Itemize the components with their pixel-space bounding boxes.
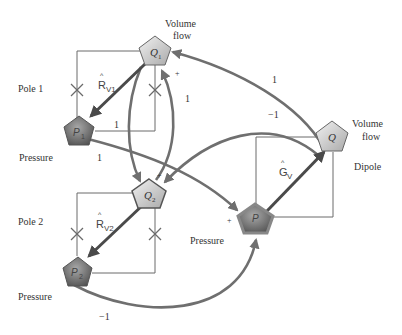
q1-desc-line1: Volume (165, 18, 196, 29)
edge-q1-to-q2 (129, 67, 141, 181)
svg-text:2: 2 (79, 273, 83, 280)
svg-text:^: ^ (98, 211, 102, 218)
edge-label-q-to-q2: −1 (268, 109, 279, 120)
p2-desc: Pressure (18, 291, 52, 302)
node-q2[interactable]: Q 2 (132, 179, 166, 208)
svg-text:2: 2 (152, 196, 156, 204)
pole2-label: Pole 2 (18, 216, 43, 227)
dipole-label: Dipole (354, 161, 382, 172)
sign-q1-plus: + (175, 69, 180, 78)
svg-text:P: P (73, 127, 80, 138)
edge-label-q2-to-q1: 1 (185, 93, 190, 104)
p1-desc: Pressure (19, 152, 53, 163)
svg-text:V: V (287, 172, 293, 181)
q1-desc-line2: flow (173, 30, 192, 41)
svg-text:R: R (96, 218, 104, 230)
q-desc-line2: flow (362, 131, 381, 142)
q-desc-line1: Volume (352, 118, 383, 129)
svg-text:Q: Q (144, 189, 152, 201)
edge-p2-to-p (74, 240, 256, 307)
pole1-label: Pole 1 (18, 83, 43, 94)
svg-text:V2: V2 (104, 224, 114, 233)
gain-gv-label: ^ G V (279, 159, 293, 181)
svg-text:^: ^ (100, 72, 104, 79)
node-p1[interactable]: P 1 (64, 116, 94, 145)
edge-label-q-to-q1: 1 (272, 74, 277, 85)
svg-text:1: 1 (158, 53, 162, 61)
sign-p-plus: + (227, 216, 232, 225)
gain-gv-arrow (266, 152, 324, 212)
svg-text:1: 1 (81, 133, 85, 140)
sign-q2-plus: + (157, 171, 162, 180)
node-p2[interactable]: P 2 (63, 257, 92, 286)
edge-label-p1-loop: 1 (114, 119, 119, 130)
svg-text:P: P (71, 267, 78, 278)
svg-text:P: P (252, 213, 259, 224)
svg-text:Q: Q (150, 46, 158, 58)
gain-rv1-label: ^ R V1 (98, 72, 116, 94)
pole-dipole-diagram: Q 1 P 1 Q 2 P 2 Q P Volume flow Pole 1 P… (0, 0, 402, 335)
node-q1[interactable]: Q 1 (139, 36, 171, 65)
gain-rv2-label: ^ R V2 (96, 211, 114, 233)
node-q[interactable]: Q (316, 121, 348, 151)
edge-label-p1-to-p: 1 (97, 152, 102, 163)
svg-text:V1: V1 (106, 85, 116, 94)
svg-text:R: R (98, 79, 106, 91)
edge-label-p2-to-p: −1 (99, 311, 110, 322)
svg-text:Q: Q (328, 131, 336, 143)
svg-text:^: ^ (281, 159, 285, 166)
p-desc: Pressure (190, 235, 224, 246)
